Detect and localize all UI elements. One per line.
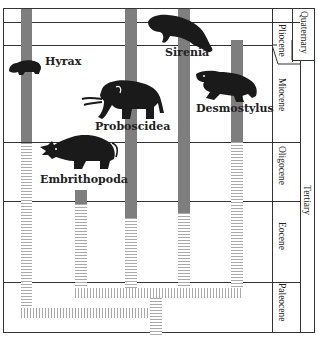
taxon-label-sirenia: Sirenia <box>165 46 209 59</box>
taxon-label-embrithopoda: Embrithopoda <box>40 173 128 186</box>
embrithopoda-icon <box>38 133 120 173</box>
proboscidea-bar-hatched <box>125 218 137 288</box>
taxon-label-proboscidea: Proboscidea <box>95 120 170 133</box>
epoch-label-miocene: Miocene <box>277 78 287 111</box>
taxon-label-desmostylus: Desmostylus <box>196 102 274 115</box>
epoch-label-paleocene: Paleocene <box>277 283 287 322</box>
connector-lower <box>21 308 152 318</box>
desmostylus-bar-hatched <box>231 142 243 288</box>
epoch-label-eocene: Eocene <box>277 222 287 250</box>
period-label-quaternary: Quaternary <box>299 11 309 54</box>
hyrax-bar-hatched <box>21 143 32 311</box>
epoch-label-oligocene: Oligocene <box>277 146 287 185</box>
connector-upper <box>75 288 243 298</box>
sirenia-bar-hatched <box>178 213 190 288</box>
taxon-label-hyrax: Hyrax <box>45 55 81 68</box>
period-label-tertiary: Tertiary <box>302 185 312 215</box>
embrithopoda-bar-solid <box>75 190 87 204</box>
proboscidea-icon <box>80 77 166 121</box>
connector-stem <box>150 298 162 335</box>
boundary-eocene-paleocene <box>3 282 300 283</box>
period-column-divider <box>300 60 301 333</box>
boundary-oligocene-eocene <box>3 201 300 202</box>
desmostylus-icon <box>194 70 260 104</box>
hyrax-icon <box>7 57 43 77</box>
epoch-label-pliocene: Pliocene <box>277 24 287 57</box>
embrithopoda-bar-hatched <box>75 204 87 288</box>
